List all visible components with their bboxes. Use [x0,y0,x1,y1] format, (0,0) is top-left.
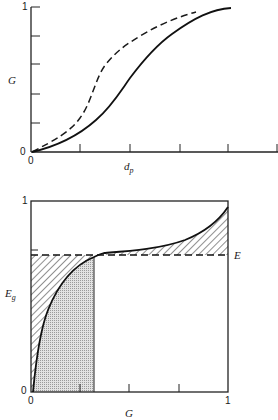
top-x-axis-label: dp [124,161,134,176]
bottom-x-zero-label: 0 [28,396,34,406]
top-x-zero-label: 0 [28,156,34,166]
top-chart [31,7,278,152]
e-line-label: E [234,250,241,261]
bottom-y-max-label: 1 [22,196,28,206]
bottom-chart [31,201,228,392]
bottom-x-ticks [80,384,179,392]
top-y-ticks [31,7,40,123]
top-x-ticks [80,144,277,152]
top-solid-curve [32,8,231,152]
figure-canvas [0,0,278,420]
bottom-x-axis-label: G [125,408,133,419]
hatched-region-right [100,207,228,255]
top-y-max-label: 1 [22,2,28,12]
top-y-zero-label: 0 [20,147,26,157]
top-y-axis-label: G [8,75,16,86]
bottom-y-axis-label: Eg [5,288,16,303]
bottom-y-zero-label: 0 [21,386,27,396]
top-dashed-curve [32,12,196,152]
bottom-x-one-label: 1 [225,396,231,406]
